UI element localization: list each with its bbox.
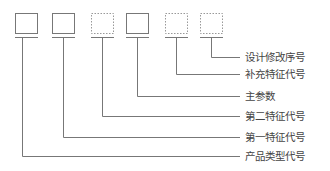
label-main-parameter: 主参数 bbox=[245, 90, 275, 102]
label-design-revision: 设计修改序号 bbox=[245, 51, 305, 63]
leader-second-feature bbox=[103, 38, 241, 117]
label-second-feature: 第二特征代号 bbox=[245, 110, 305, 122]
box-6 bbox=[201, 14, 223, 34]
label-product-type: 产品类型代号 bbox=[245, 150, 305, 162]
box-4 bbox=[127, 14, 149, 34]
leader-product-type bbox=[23, 38, 241, 157]
box-5 bbox=[166, 14, 188, 34]
box-2 bbox=[53, 14, 75, 34]
label-first-feature: 第一特征代号 bbox=[245, 131, 305, 143]
leader-first-feature bbox=[64, 38, 241, 138]
leader-supplementary-feature bbox=[177, 38, 241, 75]
label-supplementary-feature: 补充特征代号 bbox=[245, 68, 305, 80]
code-structure-diagram bbox=[0, 0, 330, 171]
box-1 bbox=[16, 14, 38, 34]
leader-design-revision bbox=[212, 38, 241, 58]
leader-main-parameter bbox=[138, 38, 241, 97]
box-3 bbox=[92, 14, 114, 34]
